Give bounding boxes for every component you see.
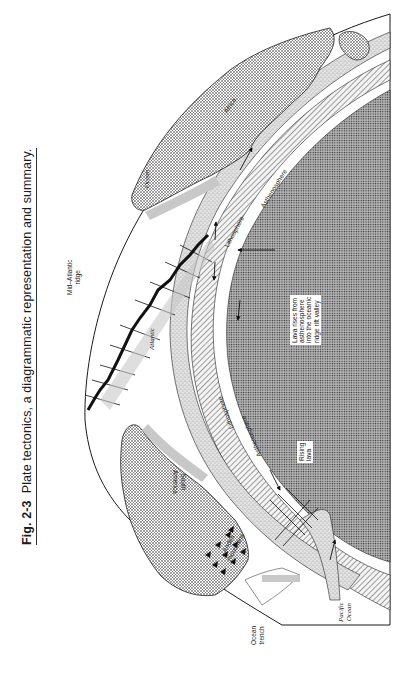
figure-caption: Fig. 2-3 Plate tectonics, a diagrammatic…: [20, 149, 34, 545]
plate-tectonics-diagram: [0, 0, 412, 673]
label-mid-atlantic-ridge: Mid–Atlantic ridge: [66, 260, 81, 295]
trench-hatch: [262, 575, 300, 582]
label-ocean: Ocean: [143, 170, 151, 188]
label-south-america: South America: [172, 470, 187, 494]
label-pacific-ocean: Pacific Ocean: [337, 602, 353, 622]
label-rising-lava: Rising lava: [297, 441, 313, 463]
label-ocean-trench: Ocean trench: [250, 626, 265, 645]
figure-caption-text: Plate tectonics, a diagrammatic represen…: [20, 149, 34, 494]
caption-underline: [36, 148, 37, 545]
label-atlantic: Atlantic: [148, 328, 156, 350]
lava-rises-callout: Lava rises from asthenosphere into the o…: [290, 295, 321, 345]
figure-number: Fig. 2-3: [20, 500, 34, 545]
